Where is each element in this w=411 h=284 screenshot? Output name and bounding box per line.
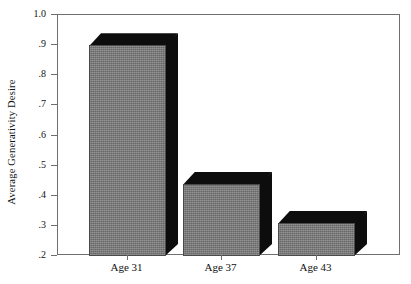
x-axis-label: Age 43 (271, 261, 361, 273)
y-tick-label: 1.0 (6, 9, 46, 19)
y-tick-label: .5 (6, 160, 46, 170)
x-tick-mark (316, 255, 317, 260)
bar-front-face (183, 184, 260, 256)
y-tick-label: .7 (6, 99, 46, 109)
x-axis-label: Age 37 (176, 261, 266, 273)
y-tick-label: .9 (6, 39, 46, 49)
bar-front-face (89, 45, 166, 256)
bar-chart: Average Generativity Desire 1.0.9.8.7.6.… (0, 0, 411, 284)
bar (278, 211, 367, 256)
x-axis-label: Age 31 (82, 261, 172, 273)
y-tick-mark (51, 255, 57, 256)
bar-side-face (259, 172, 272, 256)
bar (183, 172, 272, 256)
y-tick-label: .4 (6, 190, 46, 200)
x-tick-mark (127, 255, 128, 260)
y-tick-label: .6 (6, 130, 46, 140)
plot-area (57, 14, 400, 255)
x-tick-mark (221, 255, 222, 260)
y-tick-label: .8 (6, 69, 46, 79)
y-tick-label: .3 (6, 220, 46, 230)
bar-front-face (278, 223, 355, 256)
bar (89, 33, 178, 256)
bar-side-face (165, 33, 178, 256)
y-tick-label: .2 (6, 250, 46, 260)
